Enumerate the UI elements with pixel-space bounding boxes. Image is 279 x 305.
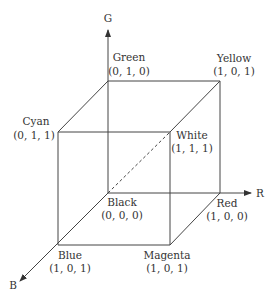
vertex-label-green: Green	[113, 51, 146, 63]
axis-label-b: B	[9, 279, 17, 291]
edge-yellow-white	[170, 81, 220, 132]
vertex-label-blue: Blue	[58, 249, 82, 261]
vertex-coords-black: (0, 0, 0)	[101, 209, 143, 221]
vertex-label-white: White	[176, 129, 207, 141]
vertex-coords-yellow: (1, 0, 1)	[213, 65, 255, 77]
edge-green-cyan	[58, 81, 108, 132]
vertex-label-yellow: Yellow	[216, 52, 251, 64]
axis-label-r: R	[256, 187, 265, 199]
vertex-label-black: Black	[107, 196, 137, 208]
vertex-label-red: Red	[217, 197, 238, 209]
vertex-coords-green: (0, 1, 0)	[108, 65, 150, 77]
axis-label-g: G	[104, 12, 112, 24]
vertex-coords-red: (1, 0, 0)	[206, 210, 248, 222]
rgb-cube-diagram: G R B Green (0, 1, 0) Yellow (1, 0, 1) C…	[0, 0, 279, 305]
vertex-label-cyan: Cyan	[23, 115, 50, 127]
vertex-coords-magenta: (1, 0, 1)	[146, 262, 188, 274]
vertex-coords-blue: (1, 0, 1)	[49, 262, 91, 274]
diagonal-black-white	[108, 132, 170, 193]
vertex-label-magenta: Magenta	[143, 249, 190, 261]
vertex-coords-cyan: (0, 1, 1)	[13, 129, 55, 141]
vertex-coords-white: (1, 1, 1)	[171, 142, 213, 154]
